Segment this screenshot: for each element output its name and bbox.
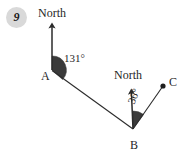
north-label-a: North [38, 7, 66, 19]
angle-label-a: 131° [64, 53, 85, 64]
point-label-a: A [41, 70, 50, 82]
point-label-c: C [169, 76, 177, 88]
figure-canvas [0, 0, 189, 161]
point-label-b: B [130, 139, 138, 151]
north-label-b: North [114, 69, 142, 81]
point-dot-c [160, 83, 165, 88]
question-number-badge: 9 [6, 7, 27, 28]
bearings-diagram: 9 North North A B C 131° 36° [0, 0, 189, 161]
